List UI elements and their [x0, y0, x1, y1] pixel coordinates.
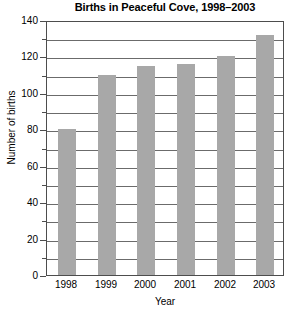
y-axis-tick-labels: 020406080100120140	[12, 21, 38, 276]
y-tick-major	[40, 276, 46, 277]
x-tick-label-1999: 1999	[86, 279, 126, 290]
bar-chart-figure: Births in Peaceful Cove, 1998–2003 Numbe…	[0, 0, 298, 312]
x-axis-label: Year	[46, 296, 284, 307]
y-tick-label: 80	[27, 125, 38, 135]
plot-area	[46, 21, 284, 276]
x-tick-label-2003: 2003	[244, 279, 284, 290]
y-tick-label: 100	[21, 89, 38, 99]
chart-title: Births in Peaceful Cove, 1998–2003	[34, 1, 296, 14]
x-tick-label-2000: 2000	[125, 279, 165, 290]
bar-2002	[217, 56, 235, 275]
bar-2001	[177, 64, 195, 275]
bar-1999	[98, 75, 116, 275]
x-tick-label-2001: 2001	[165, 279, 205, 290]
x-tick-label-1998: 1998	[46, 279, 86, 290]
bar-2003	[256, 35, 274, 275]
y-tick-label: 120	[21, 52, 38, 62]
x-tick-label-2002: 2002	[205, 279, 245, 290]
x-axis-tick-labels: 199819992000200120022003	[46, 279, 284, 292]
y-tick-label: 140	[21, 16, 38, 26]
y-tick-label: 60	[27, 162, 38, 172]
bar-1998	[58, 129, 76, 275]
y-tick-label: 40	[27, 198, 38, 208]
y-tick-label: 20	[27, 235, 38, 245]
bar-series	[47, 22, 283, 275]
y-tick-label: 0	[32, 271, 38, 281]
bar-2000	[137, 66, 155, 275]
